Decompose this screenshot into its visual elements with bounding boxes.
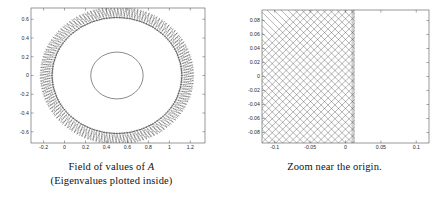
eigenvalue-dotted-rings-dots-0 (52, 17, 183, 134)
eigenvalue-dotted-rings-3 (44, 10, 189, 140)
y-tick-label-1: -0.06 (248, 115, 260, 121)
plot-zoom-near-origin: -0.1-0.0500.050.1-0.08-0.06-0.04-0.0200.… (223, 0, 446, 155)
y-tick-label-2: -0.04 (248, 101, 260, 107)
caption-text-1: Field of values of (69, 161, 148, 172)
x-tick-label-7: 1.2 (187, 144, 194, 150)
y-tick-label-6: 0.6 (22, 16, 29, 22)
eigenvalue-ring-inner (91, 52, 143, 99)
y-tick-label-3: -0.02 (248, 87, 260, 93)
y-tick-label-0: -0.6 (20, 129, 29, 135)
data-layer (40, 7, 194, 145)
eigenvalue-dotted-rings-dots-4 (43, 9, 191, 142)
data-layer (262, 0, 355, 155)
y-tick-label-0: -0.08 (248, 129, 260, 135)
axes-frame (31, 8, 205, 143)
figure-two-panel: -0.200.20.40.60.811.2-0.6-0.4-0.200.20.4… (0, 0, 446, 202)
y-tick-label-7: 0.06 (250, 31, 260, 37)
x-tick-label-1: -0.05 (304, 144, 316, 150)
x-tick-label-6: 1 (168, 144, 171, 150)
x-tick-label-3: 0.4 (103, 144, 110, 150)
x-tick-label-5: 0.8 (145, 144, 152, 150)
y-tick-label-2: -0.2 (20, 91, 29, 97)
y-tick-label-5: 0.02 (250, 59, 260, 65)
eigenvalue-dotted-rings-dots-3 (45, 11, 189, 140)
y-tick-label-5: 0.4 (22, 35, 29, 41)
eigenvalue-dotted-rings-5 (40, 7, 194, 145)
panel-zoom-near-origin: -0.1-0.0500.050.1-0.08-0.06-0.04-0.0200.… (223, 0, 446, 202)
plot-group: -0.200.20.40.60.811.2-0.6-0.4-0.200.20.4… (20, 7, 205, 151)
eigenvalue-dotted-rings-dots-1 (49, 15, 185, 137)
y-tick-label-8: 0.08 (250, 17, 260, 23)
caption-math-A: A (148, 161, 155, 172)
y-tick-label-1: -0.4 (20, 110, 29, 116)
x-tick-label-0: -0.2 (39, 144, 48, 150)
y-tick-label-3: 0 (26, 72, 29, 78)
caption-line-1: Zoom near the origin. (223, 160, 446, 174)
eigenvalue-dotted-rings-4 (42, 9, 191, 143)
x-tick-label-3: 0.05 (376, 144, 386, 150)
plot-field-of-values: -0.200.20.40.60.811.2-0.6-0.4-0.200.20.4… (0, 0, 223, 155)
caption-line-1: Field of values of A (0, 160, 223, 174)
panel-field-of-values: -0.200.20.40.60.811.2-0.6-0.4-0.200.20.4… (0, 0, 223, 202)
caption-zoom-near-origin: Zoom near the origin. (223, 160, 446, 174)
eigenvalue-dotted-rings-dots-2 (47, 13, 187, 138)
x-tick-label-1: 0 (63, 144, 66, 150)
x-tick-label-2: 0.2 (82, 144, 89, 150)
y-tick-label-6: 0.04 (250, 45, 260, 51)
x-tick-label-4: 0.1 (413, 144, 420, 150)
x-tick-label-4: 0.6 (124, 144, 131, 150)
x-tick-label-0: -0.1 (270, 144, 279, 150)
y-tick-label-4: 0.2 (22, 54, 29, 60)
x-tick-label-2: 0 (344, 144, 347, 150)
caption-line-2: (Eigenvalues plotted inside) (0, 174, 223, 188)
caption-field-of-values: Field of values of A (Eigenvalues plotte… (0, 160, 223, 187)
y-tick-label-4: 0 (257, 73, 260, 79)
plot-group: -0.1-0.0500.050.1-0.08-0.06-0.04-0.0200.… (248, 0, 429, 155)
